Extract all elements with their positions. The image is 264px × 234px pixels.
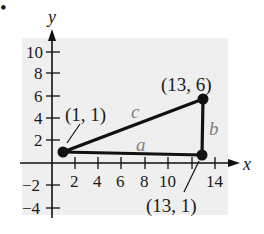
- side-label-a: a: [136, 134, 146, 155]
- bullet: •: [0, 0, 7, 18]
- x-axis-label: x: [242, 154, 251, 174]
- x-axis-arrow-icon: [228, 159, 240, 167]
- x-tick-8: 8: [140, 172, 149, 191]
- y-tick-6: 6: [34, 87, 43, 106]
- point-label-1-1: (1, 1): [65, 104, 106, 126]
- y-tick-neg2: −2: [22, 176, 40, 195]
- x-tick-10: 10: [159, 172, 176, 191]
- x-tick-2: 2: [70, 172, 79, 191]
- point-label-13-1: (13, 1): [146, 195, 197, 217]
- vertex-13-6: [198, 94, 209, 105]
- y-axis-arrow-icon: [48, 29, 56, 41]
- y-tick-10: 10: [26, 43, 43, 62]
- y-tick-neg4: −4: [22, 199, 41, 218]
- plot-area: [22, 38, 228, 215]
- x-tick-4: 4: [93, 172, 102, 191]
- side-label-c: c: [131, 101, 140, 122]
- y-tick-2: 2: [34, 131, 43, 150]
- x-tick-6: 6: [116, 172, 125, 191]
- x-tick-14: 14: [206, 172, 224, 191]
- point-label-13-6: (13, 6): [161, 74, 212, 96]
- y-tick-8: 8: [34, 64, 43, 83]
- triangle-figure: • 2 4 6 8 10 14 x 10 8 6 4 2 −2: [0, 0, 264, 234]
- vertex-13-1: [197, 150, 208, 161]
- y-tick-4: 4: [34, 109, 43, 128]
- vertex-1-1: [58, 147, 69, 158]
- side-label-b: b: [209, 118, 219, 139]
- y-axis-label: y: [46, 7, 56, 27]
